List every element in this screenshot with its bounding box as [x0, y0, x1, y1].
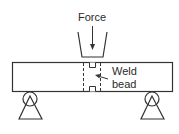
force-arrow-icon	[90, 26, 95, 50]
force-label: Force	[78, 11, 106, 23]
right-roller-support	[141, 92, 164, 119]
weld-label-line2: bead	[112, 78, 136, 90]
bend-test-diagram: Force Weld bead	[0, 0, 179, 134]
left-roller-support	[19, 92, 42, 119]
weld-label-line1: Weld	[112, 65, 137, 77]
